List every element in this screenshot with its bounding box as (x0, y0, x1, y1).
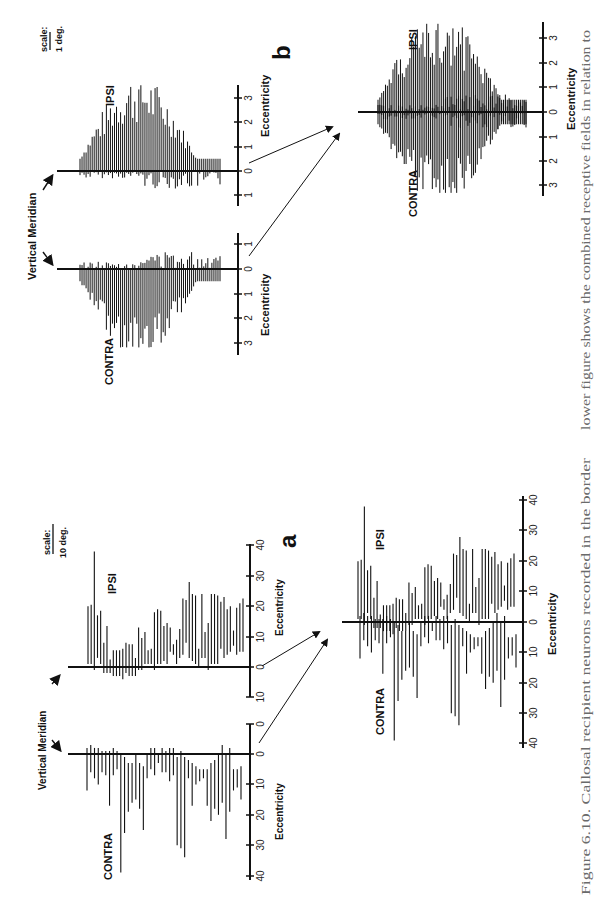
axis-tick-label: 3 (243, 340, 254, 346)
scale-label-a: scale: (42, 529, 52, 555)
panel-letter-b: b (268, 45, 295, 60)
arrow-icon (52, 740, 60, 750)
axis-tick-label: 2 (548, 158, 559, 164)
axis-tick-label: 10 (528, 646, 539, 658)
ipsi-label-b: IPSI (104, 85, 116, 106)
scale-value-b: 1 deg. (54, 26, 64, 52)
axis-tick-label: 20 (255, 809, 266, 821)
contra-plot-a: 0010203040 (68, 721, 266, 882)
contra-label-b: CONTRA (103, 338, 115, 385)
panel-letter-a: a (274, 534, 301, 548)
caption-line-1: Figure 6.10. Callosal recipient neurons … (579, 457, 593, 895)
axis-tick-label: 3 (243, 95, 254, 101)
eccentricity-label-a-ipsi: Eccentricity (274, 579, 285, 636)
axis-tick-label: 0 (548, 109, 559, 115)
caption-line-2: lower figure shows the combined receptiv… (579, 30, 593, 430)
arrow-icon (43, 176, 52, 190)
axis-tick-label: 40 (528, 737, 539, 749)
panel-b: Vertical Meridian 10123 IPSI Eccentricit… (26, 22, 577, 385)
axis-tick-label: 2 (243, 315, 254, 321)
panel-a: Vertical Meridian scale: 10 deg. 1001020… (37, 494, 558, 882)
contra-label-b-combined: CONTRA (407, 170, 419, 217)
eccentricity-label-b-contra: Eccentricity (259, 273, 271, 336)
ipsi-plot-a: 10010203040 (68, 539, 266, 703)
axis-tick-label: 0 (255, 721, 266, 727)
axis-tick-label: 3 (548, 35, 559, 41)
axis-tick-label: 0 (243, 266, 254, 272)
axis-tick-label: 0 (255, 751, 266, 757)
contra-plot-b: 10123 (57, 233, 254, 355)
axis-tick-label: 1 (243, 144, 254, 150)
arrow-icon (43, 252, 52, 264)
axis-tick-label: 1 (548, 134, 559, 140)
contra-label-a-combined: CONTRA (374, 688, 386, 735)
axis-tick-label: 20 (528, 555, 539, 567)
eccentricity-label-b-combined: Eccentricity (565, 67, 577, 130)
axis-tick-label: 1 (548, 84, 559, 90)
ipsi-plot-b: 10123 (57, 85, 254, 206)
combined-plot-b: 3210123 (358, 22, 559, 196)
axis-tick-label: 10 (528, 585, 539, 597)
axis-tick-label: 10 (255, 778, 266, 790)
arrow-icon (52, 676, 59, 684)
axis-tick-label: 1 (243, 241, 254, 247)
axis-tick-label: 40 (528, 494, 539, 506)
eccentricity-label-a-contra: Eccentricity (274, 783, 285, 840)
ipsi-label-a-combined: IPSI (374, 529, 386, 550)
axis-tick-label: 10 (255, 631, 266, 643)
axis-tick-label: 2 (548, 60, 559, 66)
axis-tick-label: 0 (243, 168, 254, 174)
ipsi-label-b-combined: IPSI (407, 29, 419, 50)
arrow-icon (262, 632, 319, 666)
eccentricity-label-a-combined: Eccentricity (546, 592, 558, 655)
scale-label-b: scale: (39, 26, 49, 52)
axis-tick-label: 20 (528, 677, 539, 689)
contra-label-a: CONTRA (102, 833, 114, 880)
combined-plot-a: 40302010010203040 (342, 494, 539, 749)
axis-tick-label: 0 (528, 619, 539, 625)
axis-tick-label: 40 (255, 539, 266, 551)
axis-tick-label: 3 (548, 182, 559, 188)
axis-tick-label: 1 (243, 291, 254, 297)
axis-tick-label: 40 (255, 870, 266, 882)
arrow-icon (259, 640, 327, 743)
axis-tick-label: 30 (528, 707, 539, 719)
vertical-meridian-label-a: Vertical Meridian (37, 711, 48, 790)
axis-tick-label: 2 (243, 119, 254, 125)
axis-tick-label: 1 (243, 192, 254, 198)
axis-tick-label: 10 (255, 691, 266, 703)
vertical-meridian-label-b: Vertical Meridian (26, 192, 38, 280)
scale-value-a: 10 deg. (58, 527, 68, 558)
arrow-icon (249, 134, 339, 256)
axis-tick-label: 20 (255, 600, 266, 612)
eccentricity-label-b-ipsi: Eccentricity (259, 74, 271, 137)
ipsi-label-a: IPSI (106, 573, 118, 594)
axis-tick-label: 30 (255, 570, 266, 582)
axis-tick-label: 30 (528, 524, 539, 536)
axis-tick-label: 30 (255, 839, 266, 851)
figure-page: Vertical Meridian 10123 IPSI Eccentricit… (0, 0, 599, 897)
